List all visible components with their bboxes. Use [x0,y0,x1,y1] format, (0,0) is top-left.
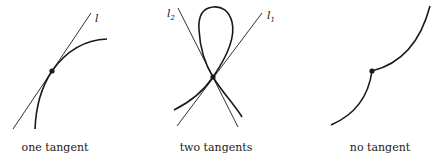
cornered-curve [331,6,430,125]
panel-one-tangent: l [13,12,107,129]
tangent-line-l1 [177,13,262,126]
panel-no-tangent [331,6,430,125]
caption-no-tangent: no tangent [350,141,410,154]
caption-two-tangents: two tangents [180,141,253,154]
label-l: l [95,12,99,25]
panel-two-tangents: l2 l1 [167,7,275,127]
smooth-curve [35,39,107,129]
crossing-point [210,74,215,79]
point-of-tangency [49,68,54,73]
loop-curve [174,7,242,117]
label-l2: l2 [167,7,176,22]
caption-one-tangent: one tangent [22,141,89,154]
corner-point [369,68,374,73]
label-l1: l1 [267,9,275,24]
